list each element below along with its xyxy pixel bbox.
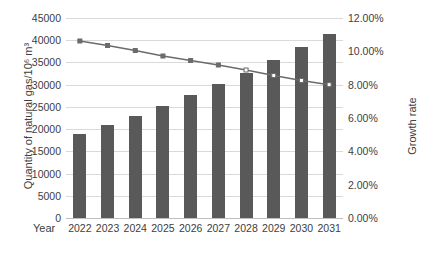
y-axis-left-tick-label: 35000: [32, 57, 61, 67]
bar: [323, 34, 336, 218]
y-axis-left-tick-label: 0: [55, 213, 61, 223]
x-axis-tick-label: 2029: [259, 222, 289, 234]
y-axis-left-tick-label: 40000: [32, 35, 61, 45]
y-axis-right-tick-label: 2.00%: [348, 180, 378, 190]
x-axis-baseline: [66, 218, 343, 219]
chart-container: 0500010000150002000025000300003500040000…: [0, 0, 427, 253]
bar: [73, 134, 86, 218]
bar: [129, 116, 142, 218]
y-axis-left-tick-label: 15000: [32, 146, 61, 156]
y-axis-right-tick-label: 6.00%: [348, 113, 378, 123]
y-axis-right-tick-label: 8.00%: [348, 80, 378, 90]
x-axis-tick-label: 2026: [176, 222, 206, 234]
bar: [240, 73, 253, 218]
y-axis-left-title: Quantity of natural gas/10⁶ m³: [22, 26, 34, 206]
x-axis-title: Year: [33, 222, 55, 234]
y-axis-left-tick-label: 30000: [32, 80, 61, 90]
bar: [212, 84, 225, 218]
growth-rate-data-point: [161, 54, 165, 58]
bar: [156, 106, 169, 218]
bar: [184, 95, 197, 218]
x-axis-tick-label: 2022: [65, 222, 95, 234]
gridline: [66, 40, 343, 41]
y-axis-right-tick-label: 10.00%: [348, 46, 384, 56]
y-axis-right-tick-label: 12.00%: [348, 13, 384, 23]
x-axis: 2022202320242025202620272028202920302031: [66, 222, 343, 238]
growth-rate-data-point: [133, 49, 137, 53]
gridline: [66, 18, 343, 19]
y-axis-left-tick-label: 25000: [32, 102, 61, 112]
y-axis-left-tick-label: 5000: [38, 191, 61, 201]
x-axis-tick-label: 2031: [314, 222, 344, 234]
y-axis-right-title: Growth rate: [406, 56, 418, 196]
x-axis-tick-label: 2023: [93, 222, 123, 234]
x-axis-tick-label: 2028: [231, 222, 261, 234]
y-axis-right-tick-label: 4.00%: [348, 146, 378, 156]
y-axis-right-tick-label: 0.00%: [348, 213, 378, 223]
x-axis-tick-label: 2030: [286, 222, 316, 234]
y-axis-left-tick-label: 20000: [32, 124, 61, 134]
growth-rate-data-point: [216, 63, 220, 67]
y-axis-left-tick-label: 10000: [32, 169, 61, 179]
bar: [295, 47, 308, 218]
plot-area: [66, 18, 343, 218]
y-axis-right: 0.00%2.00%4.00%6.00%8.00%10.00%12.00%: [348, 0, 408, 253]
growth-rate-data-point: [244, 68, 248, 72]
bar: [267, 60, 280, 218]
growth-rate-data-point: [106, 44, 110, 48]
x-axis-tick-label: 2027: [203, 222, 233, 234]
y-axis-left-tick-label: 45000: [32, 13, 61, 23]
x-axis-tick-label: 2025: [148, 222, 178, 234]
x-axis-tick-label: 2024: [120, 222, 150, 234]
bar: [101, 125, 114, 218]
